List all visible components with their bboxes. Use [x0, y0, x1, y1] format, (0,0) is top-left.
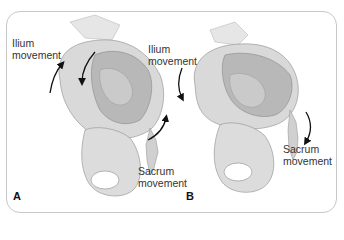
panel-a-ilium-label-line1: Ilium	[12, 37, 61, 49]
panel-b-letter: B	[186, 190, 194, 202]
panel-a-sacrum-label-line2: movement	[138, 177, 187, 189]
panel-b-ilium-label-line2: movement	[148, 55, 197, 67]
panel-a-sacrum-label: Sacrum movement	[138, 165, 187, 189]
panel-b-ilium-label-line1: Ilium	[148, 43, 197, 55]
panel-b-sacrum-label-line2: movement	[283, 155, 332, 167]
panel-a-ilium-label: Ilium movement	[12, 37, 61, 61]
panel-a-ilium-label-line2: movement	[12, 49, 61, 61]
panel-b-sacrum-arrow-icon	[306, 112, 311, 142]
panel-b-ilium-arrow-icon	[179, 68, 182, 98]
panel-b-ilium-label: Ilium movement	[148, 43, 197, 67]
panel-b-sacrum-label-line1: Sacrum	[283, 143, 332, 155]
panel-a-sacrum-label-line1: Sacrum	[138, 165, 187, 177]
panel-b-sacrum-label: Sacrum movement	[283, 143, 332, 167]
panel-a-letter: A	[13, 190, 21, 202]
